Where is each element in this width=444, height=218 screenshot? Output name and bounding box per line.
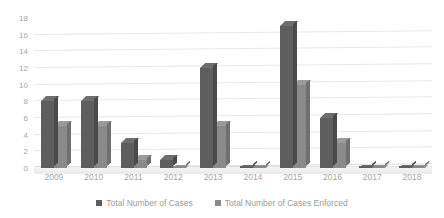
bar-front-face xyxy=(412,166,425,168)
bar-side-face xyxy=(306,80,310,166)
bar-front-face xyxy=(320,118,333,168)
bar-side-face xyxy=(94,96,98,166)
x-tick-2018: 2018 xyxy=(392,172,432,188)
bar-group-2009 xyxy=(34,18,74,168)
bar-front-face xyxy=(200,68,213,168)
bar-2016-series1 xyxy=(320,118,333,168)
x-tick-2015: 2015 xyxy=(273,172,313,188)
bar-2010-series1 xyxy=(81,101,94,168)
bar-group-2015 xyxy=(273,18,313,168)
bar-front-face xyxy=(173,166,186,168)
bar-2015-series1 xyxy=(280,26,293,168)
bar-front-face xyxy=(280,26,293,168)
bar-front-face xyxy=(399,166,412,168)
x-tick-2010: 2010 xyxy=(74,172,114,188)
y-tick-4: 4 xyxy=(24,130,28,139)
x-tick-2016: 2016 xyxy=(313,172,353,188)
y-tick-8: 8 xyxy=(24,97,28,106)
bar-group-2012 xyxy=(153,18,193,168)
bar-group-2017 xyxy=(352,18,392,168)
bar-side-face xyxy=(346,138,350,166)
y-tick-2: 2 xyxy=(24,147,28,156)
plot-area xyxy=(34,18,432,168)
y-tick-16: 16 xyxy=(19,30,28,39)
y-tick-12: 12 xyxy=(19,64,28,73)
bar-side-face xyxy=(293,21,297,166)
legend-label-1: Total Number of Cases xyxy=(106,198,192,208)
bar-front-face xyxy=(240,166,253,168)
x-tick-2013: 2013 xyxy=(193,172,233,188)
chart-title xyxy=(0,0,444,5)
chart-legend: Total Number of CasesTotal Number of Cas… xyxy=(0,196,444,210)
x-axis-tick-labels: 2009201020112012201320142015201620172018 xyxy=(34,172,432,188)
bar-side-face xyxy=(333,113,337,166)
bar-side-face xyxy=(147,155,151,166)
legend-item-1[interactable]: Total Number of Cases xyxy=(96,198,192,208)
bar-side-face xyxy=(226,121,230,166)
y-tick-6: 6 xyxy=(24,114,28,123)
square-marker-light xyxy=(215,200,221,206)
bar-front-face xyxy=(121,143,134,168)
x-tick-2009: 2009 xyxy=(34,172,74,188)
bar-2009-series1 xyxy=(41,101,54,168)
bar-side-face xyxy=(67,121,71,166)
x-tick-2011: 2011 xyxy=(114,172,154,188)
bar-front-face xyxy=(160,160,173,168)
bar-groups xyxy=(34,18,432,168)
bar-group-2016 xyxy=(313,18,353,168)
bar-front-face xyxy=(372,166,385,168)
bar-front-face xyxy=(81,101,94,168)
x-tick-2017: 2017 xyxy=(352,172,392,188)
square-marker-dark xyxy=(96,200,102,206)
bar-side-face xyxy=(213,63,217,166)
y-tick-18: 18 xyxy=(19,14,28,23)
bar-group-2018 xyxy=(392,18,432,168)
bar-side-face xyxy=(54,96,58,166)
y-tick-0: 0 xyxy=(24,164,28,173)
bar-group-2011 xyxy=(114,18,154,168)
bar-group-2013 xyxy=(193,18,233,168)
bar-2011-series1 xyxy=(121,143,134,168)
bar-front-face xyxy=(359,166,372,168)
x-tick-2014: 2014 xyxy=(233,172,273,188)
bar-group-2010 xyxy=(74,18,114,168)
bar-group-2014 xyxy=(233,18,273,168)
legend-item-2[interactable]: Total Number of Cases Enforced xyxy=(215,198,348,208)
y-tick-10: 10 xyxy=(19,80,28,89)
legend-label-2: Total Number of Cases Enforced xyxy=(225,198,348,208)
bar-2013-series1 xyxy=(200,68,213,168)
x-tick-2012: 2012 xyxy=(153,172,193,188)
y-axis-tick-labels: 024681012141618 xyxy=(0,18,32,168)
bar-side-face xyxy=(134,138,138,166)
y-tick-14: 14 xyxy=(19,47,28,56)
bar-2012-series1 xyxy=(160,160,173,168)
bar-side-face xyxy=(107,121,111,166)
bar-front-face xyxy=(41,101,54,168)
bar-chart: 024681012141618 200920102011201220132014… xyxy=(0,0,444,218)
bar-front-face xyxy=(253,166,266,168)
